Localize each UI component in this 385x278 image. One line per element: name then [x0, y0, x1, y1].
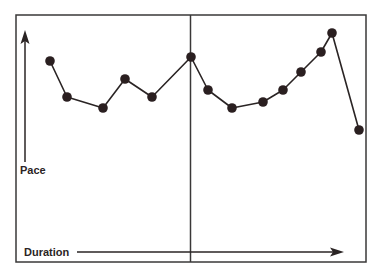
y-axis-arrow-icon: [21, 30, 30, 162]
data-point-marker: [278, 85, 288, 95]
pace-duration-chart: Pace Duration: [0, 0, 385, 278]
y-axis-label: Pace: [20, 164, 46, 176]
data-point-marker: [316, 47, 326, 57]
data-point-marker: [98, 103, 108, 113]
pace-series-line: [50, 33, 359, 130]
data-point-marker: [45, 56, 55, 66]
data-point-marker: [62, 92, 72, 102]
data-point-marker: [186, 52, 196, 62]
data-point-marker: [354, 125, 364, 135]
data-point-marker: [203, 85, 213, 95]
data-point-marker: [120, 74, 130, 84]
data-point-marker: [258, 97, 268, 107]
x-axis-label: Duration: [24, 246, 70, 258]
data-point-marker: [227, 103, 237, 113]
x-axis-arrow-icon: [77, 248, 344, 257]
data-point-marker: [147, 92, 157, 102]
data-point-marker: [327, 28, 337, 38]
data-point-marker: [296, 67, 306, 77]
